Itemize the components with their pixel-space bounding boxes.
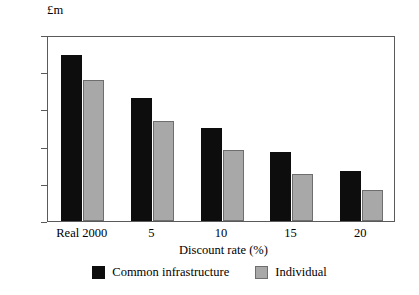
bar-chart-figure: £m 0100200300400500 Real 20005101520 Dis…	[0, 0, 419, 295]
x-axis-title: Discount rate (%)	[0, 243, 419, 258]
bar	[131, 98, 152, 221]
legend-label: Common infrastructure	[112, 265, 229, 280]
bar	[153, 121, 174, 221]
bars-container	[48, 37, 394, 221]
legend-item: Individual	[255, 265, 326, 280]
bar-group	[201, 37, 244, 221]
plot-area	[47, 36, 395, 222]
bar-group	[270, 37, 313, 221]
bar	[362, 190, 383, 221]
x-axis-tick-label: 5	[148, 226, 154, 241]
bar-group	[131, 37, 174, 221]
x-axis-tick-label: 15	[284, 226, 297, 241]
x-axis-tick-label: 20	[354, 226, 367, 241]
y-axis-unit-label: £m	[47, 3, 63, 18]
x-axis-tick-label: Real 2000	[56, 226, 107, 241]
bar	[340, 171, 361, 221]
bar	[201, 128, 222, 221]
legend-swatch	[92, 266, 105, 279]
bar-group	[340, 37, 383, 221]
legend-item: Common infrastructure	[92, 265, 229, 280]
bar-group	[61, 37, 104, 221]
y-axis-tick-mark	[41, 222, 47, 223]
chart-legend: Common infrastructureIndividual	[0, 265, 419, 280]
legend-label: Individual	[275, 265, 326, 280]
bar	[83, 80, 104, 221]
bar	[61, 55, 82, 221]
legend-swatch	[255, 266, 268, 279]
bar	[223, 150, 244, 221]
bar	[292, 174, 313, 221]
bar	[270, 152, 291, 221]
x-axis-title-text: Discount rate (%)	[179, 243, 268, 257]
x-axis-tick-label: 10	[215, 226, 228, 241]
